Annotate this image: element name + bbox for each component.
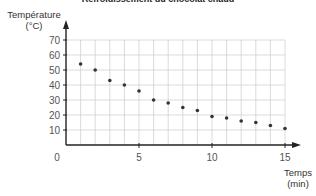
- data-point: [152, 98, 156, 102]
- y-tick-label: 20: [49, 110, 61, 121]
- data-point: [181, 106, 185, 110]
- data-point: [166, 101, 170, 105]
- x-axis-arrow-icon: [292, 142, 301, 148]
- y-axis-arrow-icon: [63, 20, 69, 29]
- data-point: [137, 89, 141, 93]
- data-point: [210, 115, 214, 119]
- data-point: [283, 127, 287, 131]
- x-tick-label: 15: [279, 152, 291, 163]
- data-point: [79, 62, 83, 66]
- x-tick-label: 10: [206, 152, 218, 163]
- y-tick-label: 10: [49, 125, 61, 136]
- data-point: [93, 68, 97, 72]
- origin-label: 0: [54, 152, 60, 163]
- data-point: [239, 119, 243, 123]
- x-tick-label: 5: [136, 152, 142, 163]
- data-point: [108, 79, 112, 83]
- data-point: [269, 124, 273, 128]
- data-point: [225, 116, 229, 120]
- data-point: [196, 109, 200, 113]
- y-tick-label: 40: [49, 80, 61, 91]
- y-tick-label: 70: [49, 35, 61, 46]
- y-tick-label: 60: [49, 50, 61, 61]
- y-tick-label: 50: [49, 65, 61, 76]
- y-tick-label: 30: [49, 95, 61, 106]
- scatter-plot: 10203040506070510150: [0, 0, 316, 196]
- data-point: [123, 83, 127, 87]
- data-point: [254, 121, 258, 125]
